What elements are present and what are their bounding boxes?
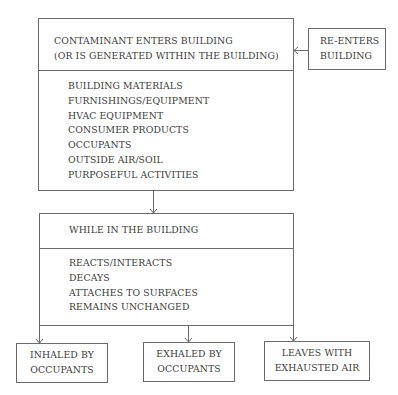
process-item: ATTACHES TO SURFACES <box>69 286 198 301</box>
reenter-line-1: RE-ENTERS <box>320 34 379 49</box>
outcome-box-exhausted: LEAVES WITH EXHAUSTED AIR <box>264 341 370 381</box>
outcome-line-1: INHALED BY <box>17 348 107 363</box>
source-title-line-2: (OR IS GENERATED WITHIN THE BUILDING) <box>54 49 279 64</box>
source-item: HVAC EQUIPMENT <box>68 109 209 124</box>
process-box-divider <box>40 248 293 249</box>
reenter-box: RE-ENTERS BUILDING <box>308 28 386 70</box>
process-list: REACTS/INTERACTS DECAYS ATTACHES TO SURF… <box>69 256 198 315</box>
outcome-line-1: EXHALED BY <box>144 347 234 362</box>
source-item: OUTSIDE AIR/SOIL <box>68 153 209 168</box>
process-box: WHILE IN THE BUILDING REACTS/INTERACTS D… <box>39 213 294 326</box>
outcome-box-exhaled: EXHALED BY OCCUPANTS <box>143 342 235 382</box>
source-item: BUILDING MATERIALS <box>68 79 209 94</box>
process-item: DECAYS <box>69 271 198 286</box>
source-item: PURPOSEFUL ACTIVITIES <box>68 168 209 183</box>
source-box-divider <box>39 70 293 71</box>
source-item: CONSUMER PRODUCTS <box>68 123 209 138</box>
process-title: WHILE IN THE BUILDING <box>69 223 198 238</box>
outcome-line-2: OCCUPANTS <box>17 363 107 378</box>
source-box: CONTAMINANT ENTERS BUILDING (OR IS GENER… <box>38 18 294 191</box>
source-title-line-1: CONTAMINANT ENTERS BUILDING <box>54 34 233 49</box>
source-list: BUILDING MATERIALS FURNISHINGS/EQUIPMENT… <box>68 79 209 183</box>
source-item: OCCUPANTS <box>68 138 209 153</box>
outcome-box-inhaled: INHALED BY OCCUPANTS <box>16 343 108 383</box>
outcome-line-2: OCCUPANTS <box>144 362 234 377</box>
process-item: REMAINS UNCHANGED <box>69 300 198 315</box>
outcome-line-1: LEAVES WITH <box>265 346 369 361</box>
reenter-line-2: BUILDING <box>320 49 372 64</box>
process-item: REACTS/INTERACTS <box>69 256 198 271</box>
source-item: FURNISHINGS/EQUIPMENT <box>68 94 209 109</box>
outcome-line-2: EXHAUSTED AIR <box>265 361 369 376</box>
